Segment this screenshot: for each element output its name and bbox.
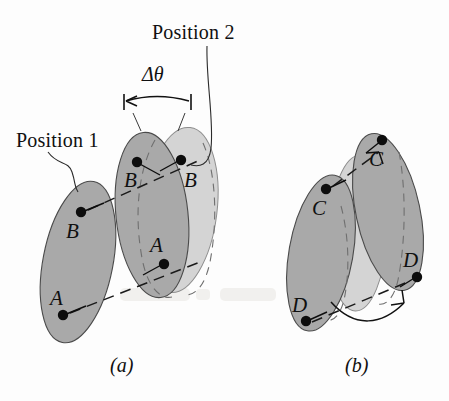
caption-b: (b)	[345, 355, 368, 375]
position-1-leader	[48, 152, 78, 192]
label-a-pos2-a: A	[150, 235, 163, 256]
label-b-pos2-a: B	[124, 170, 137, 191]
position-2-label: Position 2	[152, 22, 235, 42]
label-d-pos2-b: D	[403, 250, 418, 271]
panel-a-position-1-body	[28, 175, 128, 349]
position-1-label: Position 1	[16, 130, 99, 150]
label-d-pos1-b: D	[292, 295, 307, 316]
figure-svg	[0, 0, 449, 401]
label-a-pos1-a: A	[50, 288, 63, 309]
label-c-pos2-b: C	[369, 149, 383, 170]
delta-theta-label: Δθ	[142, 64, 164, 84]
caption-a: (a)	[110, 355, 133, 375]
label-b-pos1-a: B	[66, 221, 79, 242]
label-b-ghost-a: B	[184, 170, 197, 191]
label-c-pos1-b: C	[312, 198, 326, 219]
figure-container: Position 1 Position 2 Δθ B A B A B C D C…	[0, 0, 449, 401]
delta-theta-arc	[124, 94, 191, 131]
